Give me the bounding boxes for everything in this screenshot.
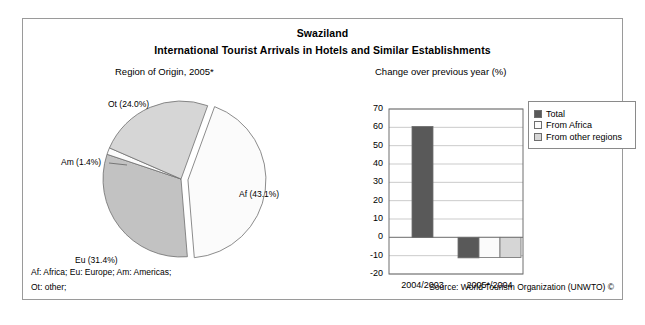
y-axis-tick-40: 40 [359,158,383,168]
bar-20052004-from-other-regions[interactable] [500,237,521,257]
legend-item-total[interactable]: Total [534,109,630,119]
bar-chart-panel: 706050403020100-10-20 2004/20032005*/200… [323,79,623,284]
legend-swatch-from-other-regions [534,133,542,141]
bar-20042003-total[interactable] [412,126,433,237]
bar-chart-title: Change over previous year (%) [375,66,506,77]
pie-chart-panel: Ot (24.0%) Am (1.4%) Eu (31.4%) Af (43.1… [23,79,343,279]
y-axis-tick-0: 0 [359,231,383,241]
y-axis-tick-30: 30 [359,176,383,186]
footnote-abbreviations-line1: Af: Africa; Eu: Europe; Am: Americas; [31,267,171,277]
y-axis-tick-20: 20 [359,195,383,205]
pie-chart-svg [23,79,343,279]
y-axis-tick-70: 70 [359,103,383,113]
pie-chart-title: Region of Origin, 2005* [115,66,214,77]
chart-legend: Total From Africa From other regions [528,101,636,149]
page-subtitle: International Tourist Arrivals in Hotels… [23,44,622,56]
chart-figure-container: Swaziland International Tourist Arrivals… [22,18,623,300]
legend-item-from-africa[interactable]: From Africa [534,120,630,130]
y-axis-tick--20: -20 [359,268,383,278]
y-axis-tick-10: 10 [359,213,383,223]
legend-label-total: Total [546,109,565,119]
pie-slice-label-af: Af (43.1%) [239,189,279,199]
y-axis-tick-60: 60 [359,121,383,131]
source-note: Source: World Tourism Organization (UNWT… [429,282,614,292]
y-axis-tick-50: 50 [359,140,383,150]
legend-swatch-total [534,110,542,118]
pie-slice-label-am: Am (1.4%) [61,157,101,167]
pie-slice-af[interactable] [188,107,266,258]
y-axis-tick--10: -10 [359,250,383,260]
legend-swatch-from-africa [534,121,542,129]
legend-item-from-other-regions[interactable]: From other regions [534,132,630,142]
legend-label-from-other-regions: From other regions [546,132,622,142]
page-title: Swaziland [23,27,622,39]
legend-label-from-africa: From Africa [546,120,592,130]
pie-slice-label-eu: Eu (31.4%) [75,255,118,265]
bar-20052004-total[interactable] [458,237,479,258]
footnote-abbreviations-line2: Ot: other; [31,282,66,292]
bar-20052004-from-africa[interactable] [479,237,500,257]
pie-slice-label-ot: Ot (24.0%) [108,99,149,109]
